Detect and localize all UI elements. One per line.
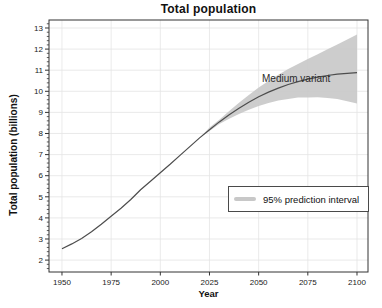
y-tick-label: 3 <box>39 235 44 244</box>
legend: 95% prediction interval <box>228 186 369 212</box>
y-tick-label: 11 <box>35 66 44 75</box>
x-tick-label: 1975 <box>102 278 120 287</box>
plot-area: 1950197520002025205020752100234567891011… <box>0 0 382 308</box>
medium-variant-label: Medium variant <box>262 73 330 84</box>
y-tick-label: 13 <box>34 24 43 33</box>
chart-title: Total population <box>49 2 368 16</box>
legend-label: 95% prediction interval <box>263 194 359 205</box>
y-tick-label: 8 <box>39 129 44 138</box>
prediction-interval-band <box>200 35 357 138</box>
x-tick-label: 2075 <box>299 278 317 287</box>
x-tick-label: 2050 <box>250 278 268 287</box>
x-tick-label: 2000 <box>151 278 169 287</box>
y-tick-label: 4 <box>39 214 44 223</box>
x-axis-title: Year <box>49 288 368 299</box>
x-tick-label: 1950 <box>53 278 71 287</box>
y-axis-title: Total population (billions) <box>8 94 19 215</box>
x-tick-label: 2100 <box>348 278 366 287</box>
y-tick-label: 9 <box>39 108 44 117</box>
y-tick-label: 5 <box>39 193 44 202</box>
population-chart: 1950197520002025205020752100234567891011… <box>0 0 382 308</box>
y-tick-label: 6 <box>39 171 44 180</box>
prediction-interval-swatch <box>234 197 256 201</box>
y-tick-label: 2 <box>39 256 44 265</box>
x-tick-label: 2025 <box>201 278 219 287</box>
y-tick-label: 10 <box>34 87 43 96</box>
y-tick-label: 12 <box>34 45 43 54</box>
y-tick-label: 7 <box>39 150 44 159</box>
